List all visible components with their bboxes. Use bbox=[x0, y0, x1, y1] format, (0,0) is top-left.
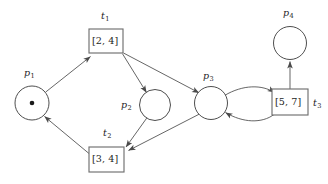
arc-p1-to-t1 bbox=[46, 57, 91, 93]
place-p2-label-index: 2 bbox=[127, 104, 131, 112]
arc-t2-to-p1 bbox=[45, 117, 90, 154]
transition-t2-label: t2 bbox=[103, 128, 111, 138]
place-p4-label-index: 4 bbox=[289, 12, 293, 20]
transition-t3-interval: [5, 7] bbox=[275, 97, 301, 107]
arc-p3-to-t3 bbox=[225, 87, 275, 96]
place-p3-label-index: 3 bbox=[209, 75, 213, 83]
petri-net-canvas bbox=[0, 0, 328, 184]
place-p2-label: p2 bbox=[121, 100, 131, 110]
arc-p3-to-t2 bbox=[129, 114, 200, 151]
place-p2[interactable] bbox=[140, 90, 171, 121]
place-p3-label: p3 bbox=[203, 71, 213, 81]
place-p3[interactable] bbox=[195, 87, 228, 120]
transition-t3-label-index: 3 bbox=[317, 102, 321, 110]
place-p4-label: p4 bbox=[283, 8, 293, 18]
arc-t3-to-p3 bbox=[226, 113, 275, 121]
place-p1-label: p1 bbox=[24, 68, 34, 78]
place-p1-label-index: 1 bbox=[30, 72, 34, 80]
transition-t2-interval: [3, 4] bbox=[92, 154, 118, 164]
place-p4[interactable] bbox=[274, 27, 307, 60]
token-p1 bbox=[30, 101, 35, 106]
arc-t1-to-p2 bbox=[123, 54, 147, 93]
transition-t1-label-index: 1 bbox=[105, 15, 109, 23]
transition-t1-interval: [2, 4] bbox=[92, 36, 118, 46]
transition-t1-label: t1 bbox=[101, 11, 109, 21]
petri-net-diagram: [2, 4] [3, 4] [5, 7] p1 p2 p3 p4 t1 t2 t… bbox=[0, 0, 328, 184]
transition-t2-label-index: 2 bbox=[107, 132, 111, 140]
transition-t3-label: t3 bbox=[313, 98, 321, 108]
